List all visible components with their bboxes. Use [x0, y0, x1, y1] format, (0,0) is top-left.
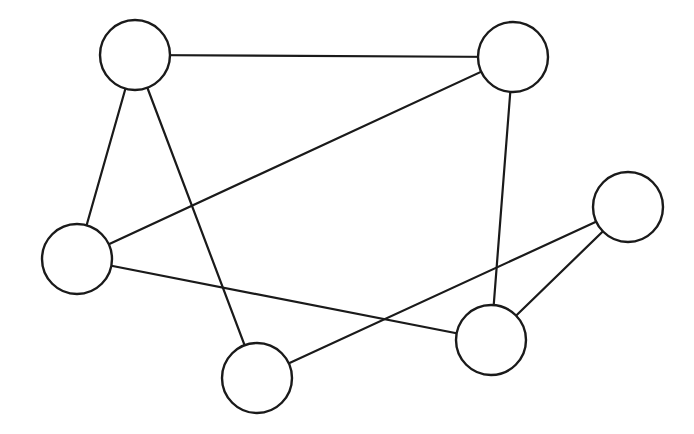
- nodes-group: [42, 20, 663, 413]
- node-C: [42, 224, 112, 294]
- edge-A-E: [135, 55, 257, 378]
- edge-E-D: [257, 207, 628, 378]
- node-F: [456, 305, 526, 375]
- node-B: [478, 22, 548, 92]
- node-E: [222, 343, 292, 413]
- edge-A-B: [135, 55, 513, 57]
- edges-group: [77, 55, 628, 378]
- edge-B-F: [491, 57, 513, 340]
- node-A: [100, 20, 170, 90]
- graph-diagram: [0, 0, 694, 434]
- node-D: [593, 172, 663, 242]
